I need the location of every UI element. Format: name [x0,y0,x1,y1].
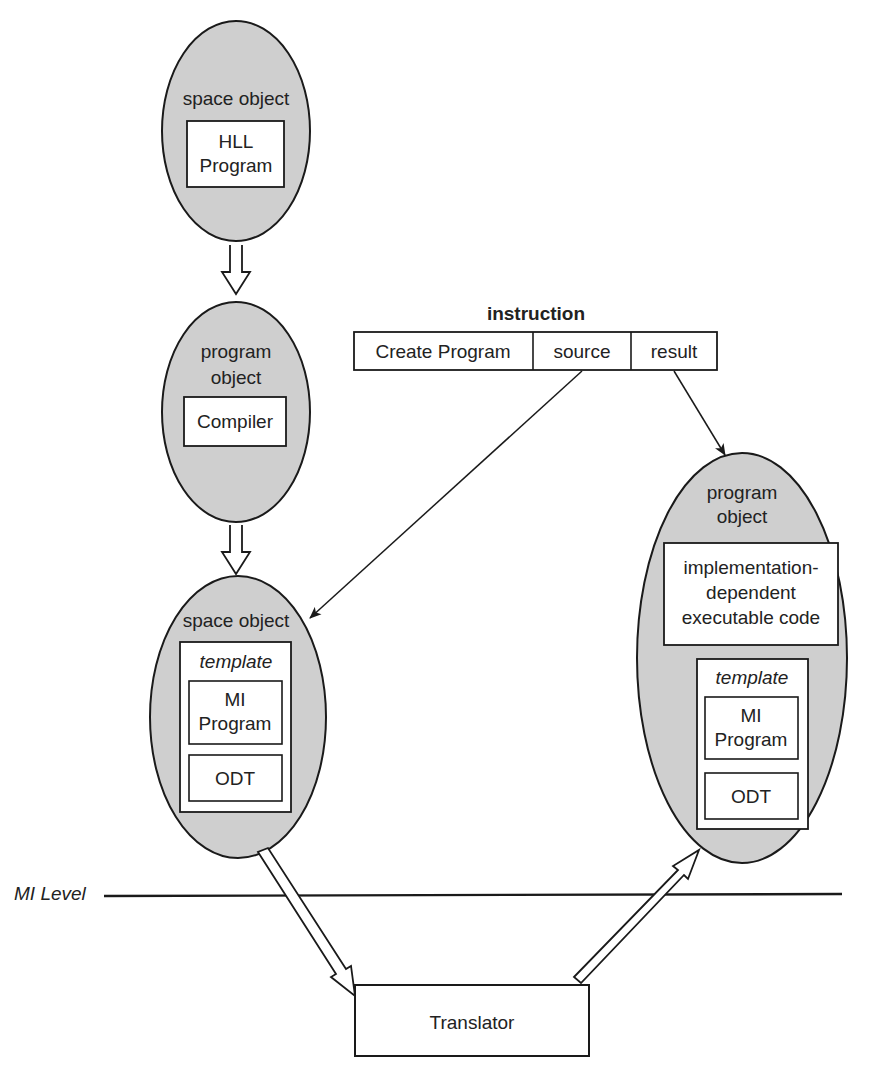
hollow-arrow-from-translator [574,850,699,983]
template-label: template [200,651,273,672]
right-ellipse-title-1: program [707,482,778,503]
source-field: source [553,341,610,362]
hollow-arrow-down-2 [222,525,250,574]
middle-ellipse-title-1: program [201,341,272,362]
compiler-program-object: program object Compiler [162,302,310,522]
hll-label: HLL [219,131,254,152]
source-arrow [310,371,582,618]
instruction-record: instruction Create Program source result [354,303,717,370]
compiler-label: Compiler [197,411,274,432]
mi-program-label: Program [199,713,272,734]
bottom-left-ellipse-title: space object [183,610,290,631]
result-arrow [674,371,725,455]
code-label-3: executable code [682,607,820,628]
hll-program-label: Program [200,155,273,176]
instruction-title: instruction [487,303,585,324]
result-field: result [651,341,698,362]
mi-label: MI [224,689,245,710]
code-label-2: dependent [706,582,797,603]
top-space-object: space object HLL Program [162,21,310,241]
right-mi-label: MI [740,705,761,726]
template-space-object: space object template MI Program ODT [150,576,326,858]
code-label-1: implementation- [683,557,818,578]
create-program-field: Create Program [375,341,510,362]
diagram-canvas: space object HLL Program program object … [0,0,875,1069]
translator-label: Translator [430,1012,515,1033]
mi-level-label: MI Level [14,883,87,904]
hollow-arrow-down-1 [222,245,250,294]
translator-box: Translator [355,985,589,1056]
right-mi-program-label: Program [715,729,788,750]
top-ellipse-title: space object [183,88,290,109]
hollow-arrow-to-translator [258,848,355,996]
middle-ellipse-title-2: object [211,367,262,388]
mi-level: MI Level [14,883,842,904]
right-template-label: template [716,667,789,688]
right-odt-label: ODT [731,786,772,807]
result-program-object: program object implementation- dependent… [637,453,847,863]
odt-label: ODT [215,768,256,789]
right-ellipse-title-2: object [717,506,768,527]
mi-level-line [104,894,842,896]
